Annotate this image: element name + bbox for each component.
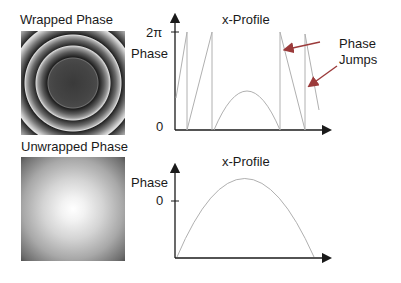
bottom-chart-axes	[171, 168, 327, 258]
profile-plots	[0, 0, 401, 283]
top-chart-axes	[171, 18, 327, 130]
unwrapped-profile-curve	[177, 179, 314, 258]
phase-jump-arrows	[288, 42, 337, 84]
